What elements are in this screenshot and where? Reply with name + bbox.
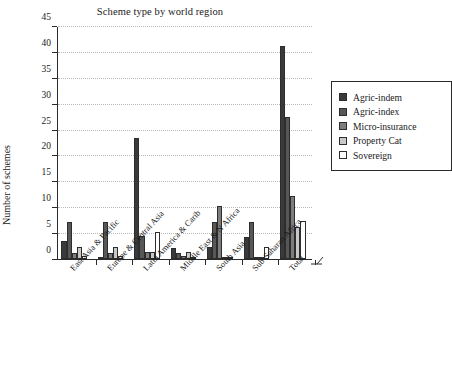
y-axis-tick: [52, 259, 57, 260]
y-axis-tick: [52, 207, 57, 208]
legend-item[interactable]: Property Cat: [339, 135, 445, 146]
y-axis-tick: [52, 26, 57, 27]
x-axis-tick: [132, 260, 133, 265]
y-axis-line: [57, 27, 58, 260]
legend-item[interactable]: Sovereign: [339, 150, 445, 161]
y-axis-tick-label: 20: [42, 141, 52, 151]
legend-item[interactable]: Agric-indem: [339, 92, 445, 103]
y-axis-tick: [52, 52, 57, 53]
legend-swatch-icon: [339, 108, 347, 116]
y-axis-tick: [52, 181, 57, 182]
bar-group: [61, 26, 87, 259]
bar[interactable]: [300, 221, 305, 259]
chart-legend: Agric-indemAgric-indexMicro-insurancePro…: [331, 81, 452, 171]
bar[interactable]: [249, 222, 254, 259]
bar-group: [244, 26, 270, 259]
y-axis-tick: [52, 155, 57, 156]
y-axis-title: Number of schemes: [1, 145, 12, 225]
legend-swatch-icon: [339, 122, 347, 130]
x-axis-tick: [169, 260, 170, 265]
legend-item[interactable]: Micro-insurance: [339, 121, 445, 132]
y-axis-tick-label: 35: [42, 64, 52, 74]
x-axis-tick: [242, 260, 243, 265]
y-axis-tick-label: 45: [42, 12, 52, 22]
y-axis-tick: [52, 233, 57, 234]
legend-item-label: Property Cat: [353, 135, 402, 146]
x-axis-tick: [96, 260, 97, 265]
y-axis-tick-label: 40: [42, 38, 52, 48]
y-axis-tick-label: 15: [42, 167, 52, 177]
legend-item-label: Agric-index: [353, 106, 399, 117]
legend-item-label: Micro-insurance: [353, 121, 416, 132]
x-axis-tick: [278, 260, 279, 265]
y-axis-tick-label: 30: [42, 90, 52, 100]
y-axis-tick-label: 0: [46, 245, 51, 255]
y-axis-tick-label: 25: [42, 116, 52, 126]
legend-swatch-icon: [339, 151, 347, 159]
legend-item-label: Agric-indem: [353, 92, 402, 103]
y-axis-tick: [52, 130, 57, 131]
axis-break-arrow: [311, 254, 323, 265]
y-axis-tick-label: 5: [46, 219, 51, 229]
legend-item[interactable]: Agric-index: [339, 106, 445, 117]
y-axis-tick: [52, 104, 57, 105]
legend-item-label: Sovereign: [353, 150, 392, 161]
y-axis-tick: [52, 78, 57, 79]
legend-swatch-icon: [339, 93, 347, 101]
legend-swatch-icon: [339, 137, 347, 145]
x-axis-tick: [315, 260, 316, 265]
y-axis-tick-label: 10: [42, 193, 52, 203]
x-axis-tick: [205, 260, 206, 265]
